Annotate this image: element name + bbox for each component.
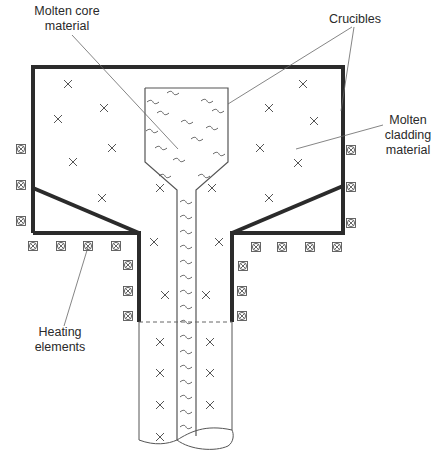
label-heating-line2: elements	[25, 340, 95, 355]
outer-crucible	[33, 67, 343, 322]
label-molten-core-material: Molten core material	[17, 4, 117, 34]
core-material-waves	[146, 91, 225, 428]
label-heating-line1: Heating	[25, 325, 95, 340]
label-core-line2: material	[17, 19, 117, 34]
label-cladding-line1: Molten	[380, 113, 436, 128]
label-crucibles: Crucibles	[320, 12, 390, 27]
double-crucible-diagram	[0, 0, 436, 454]
label-cladding-line2: cladding	[380, 128, 436, 143]
label-heating-elements: Heating elements	[25, 325, 95, 355]
label-core-line1: Molten core	[17, 4, 117, 19]
inner-crucible	[145, 88, 228, 440]
label-molten-cladding-material: Molten cladding material	[380, 113, 436, 158]
leader-lines	[64, 27, 383, 326]
preform-tube	[139, 322, 233, 449]
label-crucibles-line1: Crucibles	[320, 12, 390, 27]
label-cladding-line3: material	[380, 143, 436, 158]
cladding-material-marks	[54, 80, 318, 441]
